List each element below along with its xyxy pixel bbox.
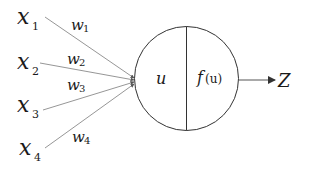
input-subscript-2: 2 <box>32 65 39 78</box>
neuron-sum-label: u <box>156 69 166 88</box>
input-label-1: x <box>17 4 30 29</box>
output-label: Z <box>277 70 291 91</box>
weight-subscript-1: 1 <box>83 23 89 34</box>
input-edge-1 <box>45 17 134 78</box>
input-subscript-3: 3 <box>32 108 39 121</box>
weight-subscript-3: 3 <box>79 83 85 94</box>
input-subscript-4: 4 <box>34 151 41 164</box>
input-edge-3 <box>43 82 134 110</box>
input-edge-2 <box>40 63 134 80</box>
neuron-activation-arg: (u) <box>205 72 222 86</box>
input-label-4: x <box>19 135 32 160</box>
weight-subscript-4: 4 <box>84 135 90 146</box>
input-label-3: x <box>17 92 30 117</box>
input-label-2: x <box>17 49 30 74</box>
perceptron-diagram: x 1 x 2 x 3 x 4 w 1 w 2 w 3 w 4 u f (u) … <box>0 0 309 169</box>
input-subscript-1: 1 <box>32 20 39 33</box>
weight-subscript-2: 2 <box>79 57 85 68</box>
